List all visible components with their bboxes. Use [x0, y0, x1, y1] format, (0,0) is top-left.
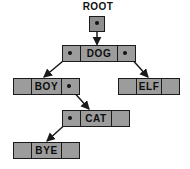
- tree-node-dog: DOG: [62, 45, 136, 62]
- tree-node-boy: BOY: [13, 78, 80, 95]
- dog-value-cell: DOG: [80, 46, 118, 61]
- elf-right-pointer-cell: [162, 79, 179, 94]
- boy-left-pointer-cell: [14, 79, 31, 94]
- pointer-dot-icon: [67, 84, 71, 88]
- boy-value-cell: BOY: [31, 79, 62, 94]
- tree-node-elf: ELF: [118, 78, 180, 95]
- elf-value-cell: ELF: [136, 79, 162, 94]
- pointer-dot-icon: [95, 21, 99, 25]
- root-label: ROOT: [76, 1, 120, 13]
- cat-value-cell: CAT: [80, 111, 112, 126]
- bye-left-pointer-cell: [14, 143, 31, 158]
- binary-tree-diagram: ROOT DOG BOY ELF CAT BYE: [0, 0, 190, 169]
- cat-right-pointer-cell: [112, 111, 129, 126]
- bye-right-pointer-cell: [62, 143, 79, 158]
- tree-node-bye: BYE: [13, 142, 80, 159]
- bye-value-cell: BYE: [31, 143, 62, 158]
- pointer-dot-icon: [123, 51, 127, 55]
- pointer-dot-icon: [68, 116, 72, 120]
- boy-right-pointer-cell: [62, 79, 79, 94]
- tree-node-cat: CAT: [62, 110, 130, 127]
- dog-left-pointer-cell: [63, 46, 80, 61]
- dog-right-pointer-cell: [118, 46, 135, 61]
- pointer-dot-icon: [68, 51, 72, 55]
- elf-left-pointer-cell: [119, 79, 136, 94]
- root-pointer-box: [89, 16, 105, 32]
- cat-left-pointer-cell: [63, 111, 80, 126]
